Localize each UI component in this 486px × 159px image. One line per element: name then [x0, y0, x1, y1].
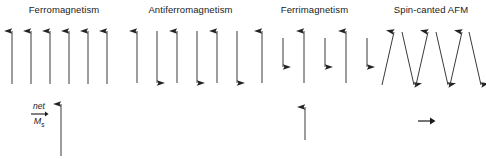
spin-arrow [402, 32, 414, 85]
net-moment-row-ferrimagnetism [253, 99, 376, 147]
panel-title-antiferromagnetism: Antiferromagnetism [128, 4, 253, 15]
panel-title-ferrimagnetism: Ferrimagnetism [253, 4, 376, 15]
spin-arrows-antiferromagnetism [128, 22, 253, 88]
panel-ferrimagnetism: Ferrimagnetism [253, 0, 376, 159]
spin-arrow [436, 32, 448, 85]
spin-arrows-ferrimagnetism [253, 22, 376, 88]
net-magnetization-arrowhead [430, 118, 436, 125]
spin-arrow [450, 32, 462, 85]
spin-arrows-ferromagnetism [0, 22, 128, 88]
spin-array-antiferromagnetism [128, 22, 253, 88]
spin-arrows-spin-canted-afm [376, 22, 486, 92]
net-moment-row-ferromagnetism: net Ms [0, 96, 128, 158]
vector-arrow-icon [22, 111, 56, 117]
net-arrow-ferrimagnetism [253, 99, 376, 147]
net-label-word: net [22, 102, 56, 111]
net-moment-row-spin-canted-afm [376, 108, 486, 134]
net-arrow-spin-canted-afm [376, 108, 486, 134]
spin-array-ferrimagnetism [253, 22, 376, 88]
panel-spin-canted-afm: Spin-canted AFM [376, 0, 486, 159]
spin-array-ferromagnetism [0, 22, 128, 88]
net-label-symbol: Ms [22, 117, 56, 128]
panel-ferromagnetism: Ferromagnetism [0, 0, 128, 159]
spin-arrow [416, 32, 428, 85]
panel-antiferromagnetism: Antiferromagnetism [128, 0, 253, 159]
spin-arrow [382, 32, 394, 85]
net-magnetization-label: net Ms [22, 102, 56, 128]
spin-arrow [469, 32, 481, 85]
net-arrow-ferromagnetism [0, 96, 128, 158]
panel-title-ferromagnetism: Ferromagnetism [0, 4, 128, 15]
magnetic-ordering-figure: Ferromagnetism [0, 0, 486, 159]
panel-title-spin-canted-afm: Spin-canted AFM [376, 4, 486, 15]
spin-array-spin-canted-afm [376, 22, 486, 88]
